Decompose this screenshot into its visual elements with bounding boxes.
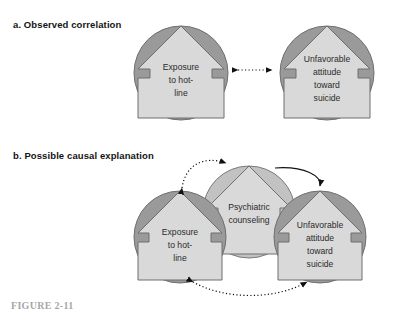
node-label-line: Exposure [163,62,200,72]
node-label-line: attitude [306,233,334,243]
node-label-line: suicide [307,259,334,269]
panel-b-node-attitude[interactable]: Unfavorable attitude toward suicide [274,191,366,283]
node-label-line: suicide [314,93,341,103]
node-label-line: toward [307,246,333,256]
node-label-line: counseling [228,215,269,225]
panel-b-exposure-attitude-connector [193,282,307,296]
panel-a-group: Exposure to hot- line Unfavorable attitu… [134,26,374,120]
node-label-line: Unfavorable [304,54,351,64]
node-label-line: line [174,88,188,98]
node-label-line: to hot- [168,240,193,250]
node-label-line: Psychiatric [228,202,270,212]
node-label-line: Exposure [162,227,199,237]
diagram-svg: Exposure to hot- line Unfavorable attitu… [0,0,394,311]
panel-a-node-exposure[interactable]: Exposure to hot- line [134,26,228,120]
node-label-line: Unfavorable [297,220,344,230]
node-label-line: attitude [313,67,341,77]
panel-b-group: Psychiatric counseling Exposure to hot- … [134,160,366,295]
node-label-line: line [173,253,187,263]
panel-b-node-exposure[interactable]: Exposure to hot- line [134,191,226,283]
figure-container: a. Observed correlation b. Possible caus… [0,0,394,311]
node-label-line: to hot- [169,75,194,85]
figure-caption: FIGURE 2-11 [11,300,73,311]
panel-a-node-attitude[interactable]: Unfavorable attitude toward suicide [280,26,374,120]
node-label-line: toward [314,80,340,90]
